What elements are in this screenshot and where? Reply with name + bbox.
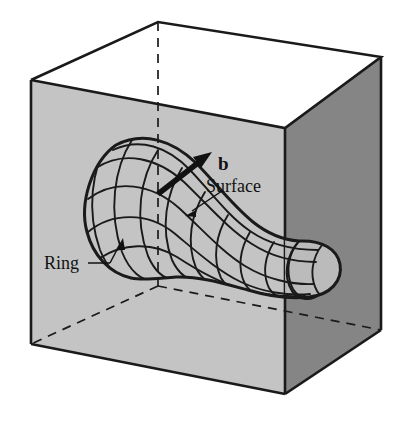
figure-container: b Surface Ring bbox=[0, 0, 401, 431]
diagram-svg: b Surface Ring bbox=[0, 0, 401, 431]
ring-label: Ring bbox=[44, 253, 79, 273]
burgers-vector-label: b bbox=[218, 153, 229, 174]
surface-label: Surface bbox=[206, 176, 261, 196]
